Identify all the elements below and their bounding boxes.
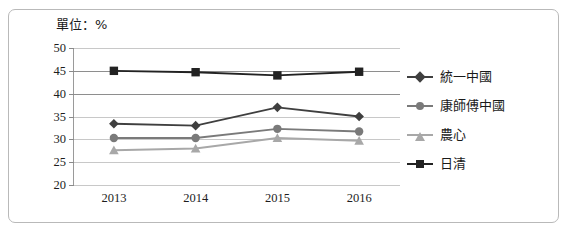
legend-label-2: 農心 (440, 128, 466, 142)
chart-figure: 單位：% 20253035404550 2013201420152016 統一中… (0, 0, 569, 235)
series-line-1 (114, 129, 359, 138)
legend-marker-triangle-icon (407, 129, 433, 141)
data-point-3-0 (110, 67, 118, 75)
legend-item-2[interactable]: 農心 (407, 120, 542, 149)
legend-marker-square-icon (407, 158, 433, 170)
legend-label-3: 日清 (440, 157, 466, 171)
series-line-0 (114, 107, 359, 125)
legend-label-1: 康師傅中國 (440, 99, 505, 113)
series-line-2 (114, 138, 359, 150)
data-point-1-1 (191, 134, 199, 142)
chart-legend: 統一中國康師傅中國農心日清 (407, 62, 542, 178)
data-point-0-1 (191, 121, 201, 131)
data-point-0-3 (354, 112, 364, 122)
legend-item-0[interactable]: 統一中國 (407, 62, 542, 91)
legend-label-0: 統一中國 (440, 70, 492, 84)
legend-item-3[interactable]: 日清 (407, 149, 542, 178)
legend-marker-diamond-icon (407, 71, 433, 83)
data-point-1-2 (273, 125, 281, 133)
data-point-3-3 (355, 68, 363, 76)
legend-item-1[interactable]: 康師傅中國 (407, 91, 542, 120)
data-point-0-2 (273, 103, 283, 113)
data-point-1-3 (355, 127, 363, 135)
data-point-3-2 (273, 71, 281, 79)
legend-marker-circle-icon (407, 100, 433, 112)
series-line-3 (114, 71, 359, 76)
data-point-3-1 (191, 68, 199, 76)
data-point-1-0 (110, 134, 118, 142)
data-point-0-0 (109, 119, 119, 129)
